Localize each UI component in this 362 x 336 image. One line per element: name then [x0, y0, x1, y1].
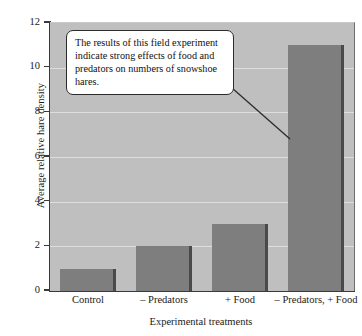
callout-annotation: The results of this field experiment ind… [66, 30, 234, 95]
x-axis-title: Experimental treatments [47, 316, 355, 327]
bar-chart-figure: Average relative hare density 024681012 … [0, 0, 362, 336]
bar [212, 224, 268, 291]
y-tick-label: 4 [0, 195, 40, 206]
bar [60, 269, 116, 291]
y-tick-label: 8 [0, 106, 40, 117]
y-tick-label: 2 [0, 240, 40, 251]
x-tick-label: – Predators, + Food [256, 294, 362, 305]
y-tick-label: 12 [0, 17, 40, 28]
y-tick-label: 6 [0, 151, 40, 162]
bar [136, 246, 192, 291]
bar [288, 45, 344, 291]
y-tick-label: 10 [0, 61, 40, 72]
